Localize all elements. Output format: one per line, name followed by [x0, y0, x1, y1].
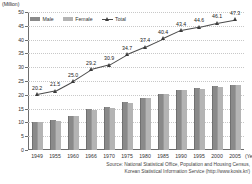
x-axis-unit-label: (Year)	[245, 153, 252, 159]
source-line-2: Korean Statistical Information Service (…	[0, 169, 250, 176]
total-data-label: 20.2	[32, 85, 42, 91]
total-data-label: 29.2	[86, 60, 96, 66]
y-tick-label: 0	[4, 147, 24, 153]
y-tick-label: 35	[4, 50, 24, 56]
x-tick-label: 1980	[139, 153, 151, 159]
y-tick-label: 25	[4, 78, 24, 84]
y-tick-label: 50	[4, 9, 24, 15]
y-tick-mark	[25, 150, 28, 151]
total-data-label: 21.5	[50, 81, 60, 87]
y-tick-label: 10	[4, 119, 24, 125]
y-tick-label: 40	[4, 37, 24, 43]
x-tick-label: 1955	[49, 153, 61, 159]
total-data-label: 30.9	[104, 55, 114, 61]
x-tick-label: 1949	[31, 153, 43, 159]
total-data-label: 43.4	[176, 21, 186, 27]
total-data-label: 40.4	[158, 29, 168, 35]
source-note: Source: National Statistical Office, Pop…	[0, 162, 252, 176]
x-tick-label: 1970	[103, 153, 115, 159]
total-data-label: 34.7	[122, 45, 132, 51]
x-tick-label: 1990	[175, 153, 187, 159]
x-tick-label: 1985	[157, 153, 169, 159]
x-tick-label: 1966	[85, 153, 97, 159]
x-tick-label: 1995	[193, 153, 205, 159]
y-tick-label: 45	[4, 23, 24, 29]
total-marker	[233, 17, 237, 21]
y-tick-label: 5	[4, 133, 24, 139]
y-tick-label: 30	[4, 64, 24, 70]
total-data-label: 47.3	[230, 10, 240, 16]
x-tick-label: 1975	[121, 153, 133, 159]
x-tick-label: 1960	[67, 153, 79, 159]
total-data-label: 46.1	[212, 13, 222, 19]
total-data-label: 25.0	[68, 72, 78, 78]
y-tick-label: 15	[4, 106, 24, 112]
total-data-label: 37.4	[140, 37, 150, 43]
source-line-1: Source: National Statistical Office, Pop…	[0, 162, 250, 169]
y-tick-label: 20	[4, 92, 24, 98]
total-data-label: 44.6	[194, 17, 204, 23]
plot-area: 05101520253035404550 20.221.525.029.230.…	[28, 12, 244, 150]
plot-inner: 05101520253035404550 20.221.525.029.230.…	[28, 12, 244, 150]
population-chart: (Million) Male Female Total 051015202530…	[0, 0, 252, 184]
x-tick-label: 2005	[229, 153, 241, 159]
total-line-layer: 20.221.525.029.230.934.737.440.443.444.6…	[28, 12, 244, 150]
y-axis-unit-label: (Million)	[2, 1, 19, 7]
x-tick-label: 2000	[211, 153, 223, 159]
